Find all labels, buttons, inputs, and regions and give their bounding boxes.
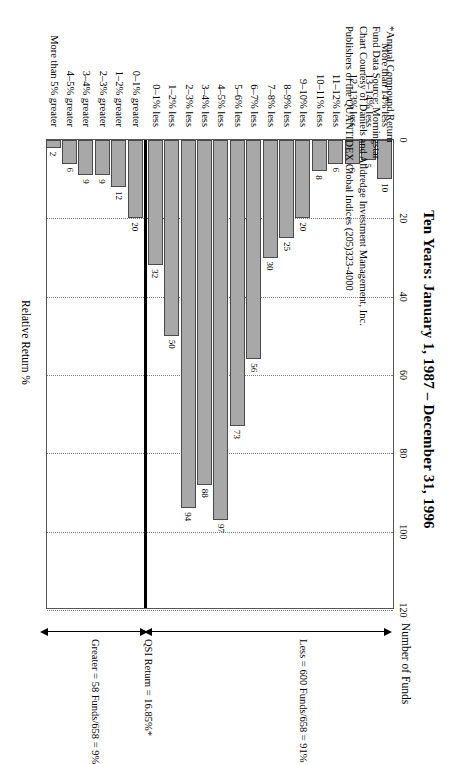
bar-row: 50	[164, 140, 179, 610]
bar-row: 6	[62, 140, 77, 610]
bar	[46, 140, 61, 148]
less-range-arrow-line	[152, 631, 384, 632]
footnote-line-1: *Annual Compound Return	[384, 26, 398, 326]
bar-value-label: 8	[314, 175, 324, 180]
bar-value-label: 94	[183, 512, 193, 521]
category-label: 11–12% less	[329, 74, 344, 127]
x-axis-tick-label: 60	[398, 370, 409, 380]
gridline	[47, 610, 393, 611]
bar	[197, 140, 212, 485]
bar-value-label: 32	[150, 269, 160, 278]
bar-value-label: 6	[65, 168, 75, 173]
y-axis-title: Relative Return %	[20, 300, 32, 385]
footnote-line-2: Fund Data Source: Morningstar	[370, 26, 384, 326]
category-label: 1–2% greater	[112, 71, 127, 127]
footnote-line-3: Chart Courtesy of Daniels and Alldredge …	[357, 26, 371, 326]
bar-value-label: 9	[97, 179, 107, 184]
bar-value-label: 6	[331, 168, 341, 173]
bar-value-label: 56	[249, 363, 259, 372]
bar-row: 20	[295, 140, 310, 610]
x-axis-tick-label: 0	[398, 138, 409, 143]
category-label: 7–8% less	[264, 84, 279, 127]
category-label-column: More than 14% less13–14% less12–13% less…	[46, 0, 394, 133]
bar	[295, 140, 310, 218]
bar-row: 2	[46, 140, 61, 610]
bar	[328, 140, 343, 164]
x-axis-tick-label: 120	[398, 603, 409, 618]
category-label: 4–5% less	[215, 84, 230, 127]
bar	[181, 140, 196, 508]
greater-range-arrow-line	[48, 631, 140, 632]
bar-row: 20	[128, 140, 143, 610]
bar-row: 32	[148, 140, 163, 610]
footnote-block: *Annual Compound Return Fund Data Source…	[343, 26, 397, 326]
bar-row: 30	[263, 140, 278, 610]
category-label: 2–3% greater	[96, 71, 111, 127]
bar-row: 56	[246, 140, 261, 610]
bar	[214, 140, 229, 520]
category-label: 3–4% less	[198, 84, 213, 127]
category-label: 2–3% less	[182, 84, 197, 127]
bar-row: 9	[95, 140, 110, 610]
category-label: 6–7% less	[247, 84, 262, 127]
bar-value-label: 88	[200, 489, 210, 498]
bar-value-label: 9	[81, 179, 91, 184]
bar-value-label: 30	[265, 262, 275, 271]
bar-value-label: 97	[216, 524, 226, 533]
category-label: 8–9% less	[280, 84, 295, 127]
bar	[279, 140, 294, 238]
bar	[95, 140, 110, 175]
category-label: More than 5% greater	[47, 35, 62, 127]
category-label: 0–1% greater	[129, 71, 144, 127]
bar-row: 88	[197, 140, 212, 610]
annotation-qsi-return: QSI Return = 16.85%*	[143, 639, 154, 736]
annotation-less: Less = 600 Funds/658 = 91%	[298, 639, 309, 763]
bar	[78, 140, 93, 175]
bar	[164, 140, 179, 336]
bar-row: 97	[214, 140, 229, 610]
bar-row: 94	[181, 140, 196, 610]
bar-value-label: 2	[48, 152, 58, 157]
bar-value-label: 20	[130, 222, 140, 231]
bar-value-label: 20	[298, 222, 308, 231]
category-label: 1–2% less	[165, 84, 180, 127]
less-range-arrow-arrowhead-up	[384, 628, 392, 636]
bar	[62, 140, 77, 164]
bar-value-label: 25	[282, 242, 292, 251]
bar-row: 6	[328, 140, 343, 610]
category-label: 9–10% less	[296, 79, 311, 127]
bar-value-label: 12	[114, 191, 124, 200]
bar-row: 73	[230, 140, 245, 610]
bar	[312, 140, 327, 171]
category-label: 3–4% greater	[79, 71, 94, 127]
bar	[111, 140, 126, 187]
zero-divider-line	[144, 140, 147, 608]
greater-range-arrow-arrowhead-down	[40, 628, 48, 636]
category-label: 10–11% less	[313, 74, 328, 127]
bar-row: 12	[111, 140, 126, 610]
bar	[148, 140, 163, 265]
category-label: 5–6% less	[231, 84, 246, 127]
category-label: 4–5% greater	[63, 71, 78, 127]
annotation-greater: Greater = 58 Funds/658 = 9%	[90, 639, 101, 764]
footnote-line-4: Publishers of the QUANTIDEX Global Indic…	[343, 26, 357, 326]
bar	[230, 140, 245, 426]
category-label: 0–1% less	[149, 84, 164, 127]
bar-value-label: 73	[232, 430, 242, 439]
x-axis-title: Number of Funds	[400, 623, 412, 704]
bar-value-label: 50	[167, 340, 177, 349]
bar	[246, 140, 261, 359]
x-axis-tick-label: 80	[398, 448, 409, 458]
greater-range-arrow-arrowhead-up	[140, 628, 148, 636]
plot-area: 0204060801001201056682025305673978894503…	[46, 139, 394, 609]
x-axis-tick-label: 40	[398, 292, 409, 302]
bar-row: 25	[279, 140, 294, 610]
page-title: Ten Years: January 1, 1987 – December 31…	[420, 0, 437, 739]
x-axis-tick-label: 100	[398, 524, 409, 539]
bar	[128, 140, 143, 218]
bar-row: 8	[312, 140, 327, 610]
x-axis-tick-label: 20	[398, 213, 409, 223]
bar-row: 9	[78, 140, 93, 610]
